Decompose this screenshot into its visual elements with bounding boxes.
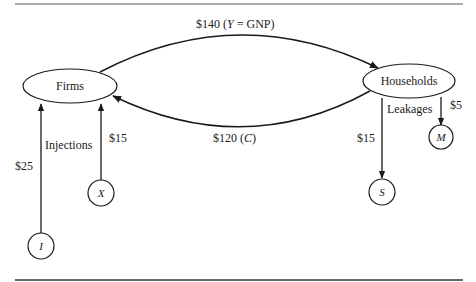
income-flow-arrow <box>100 35 378 72</box>
investment-node-label: I <box>39 239 43 253</box>
households-label: Households <box>381 74 438 88</box>
saving-amount: $15 <box>357 131 375 145</box>
consumption-flow-label: $120 (C) <box>213 131 256 145</box>
imports-node-label: M <box>436 130 445 144</box>
consumption-flow-arrow <box>113 91 370 127</box>
exports-amount: $15 <box>109 131 127 145</box>
income-flow-label: $140 (Y = GNP) <box>196 17 274 31</box>
imports-amount: $5 <box>450 98 462 112</box>
leakages-label: Leakages <box>387 102 432 116</box>
investment-amount: $25 <box>15 159 33 173</box>
injections-label: Injections <box>45 138 92 152</box>
saving-node-label: S <box>379 185 385 199</box>
exports-node-label: X <box>98 186 105 200</box>
firms-label: Firms <box>56 79 84 93</box>
